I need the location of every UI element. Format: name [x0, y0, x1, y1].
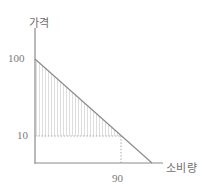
y-axis-label: 가격 [29, 14, 50, 30]
x-tick-label-90: 90 [112, 172, 123, 184]
x-axis-label: 소비량 [166, 159, 197, 175]
y-tick-label-10: 10 [17, 129, 28, 141]
y-tick-label-100: 100 [8, 52, 25, 64]
demand-curve-figure: 가격 소비량 100 10 90 [0, 0, 208, 195]
